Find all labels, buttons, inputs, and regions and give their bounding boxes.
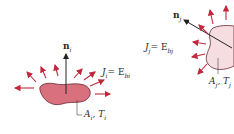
surface-j-blob (206, 26, 234, 70)
normal-i-label: ni (63, 42, 71, 53)
surface-j (184, 6, 234, 74)
area-temp-i-label: Ai, Ti (84, 110, 106, 121)
radiosity-j-label: Jj= Ebj (145, 43, 173, 54)
surface-i-blob (40, 83, 91, 104)
radiosity-i-label: Ji= Ebi (102, 68, 130, 79)
normal-j-label: nj (173, 11, 181, 22)
surface-i (15, 54, 110, 115)
area-temp-j-label: Aj, Tj (209, 77, 231, 88)
